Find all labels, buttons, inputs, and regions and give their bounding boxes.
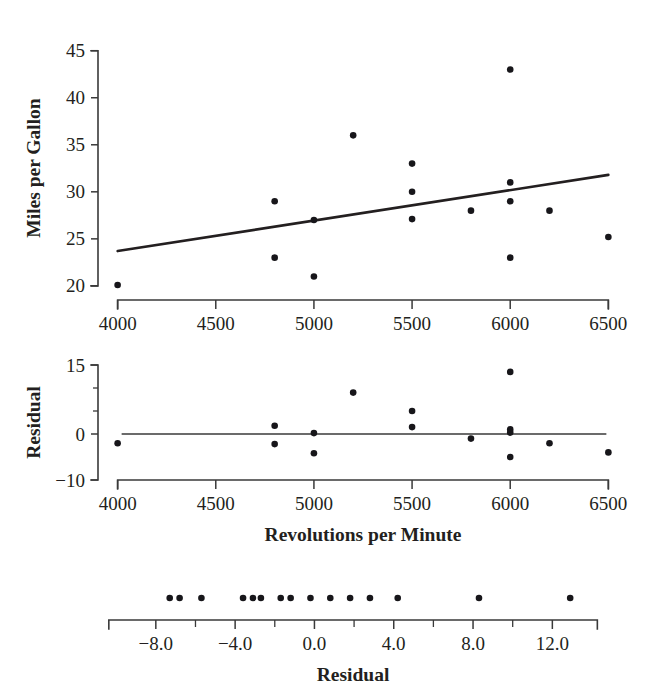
x-tick-label: 4.0	[382, 633, 406, 654]
residual-point	[507, 454, 514, 461]
y-axis-top-spine	[91, 51, 98, 286]
y-tick-label: 15	[66, 355, 85, 376]
dotplot-dot	[277, 595, 284, 602]
regression-line	[118, 175, 609, 251]
x-tick-label: 6000	[491, 313, 529, 334]
x-tick-label: 5500	[393, 313, 431, 334]
x-axis-mid-spine	[118, 480, 609, 489]
scatter-point	[409, 189, 416, 196]
scatter-point	[507, 66, 514, 73]
dotplot-dot	[258, 595, 265, 602]
dotplot-dot	[307, 595, 314, 602]
dotplot-dot	[394, 595, 401, 602]
x-tick-label: 4000	[99, 313, 137, 334]
dotplot-dot	[367, 595, 374, 602]
y-tick-label: 45	[66, 40, 85, 61]
x-tick-label: −4.0	[218, 633, 252, 654]
x-tick-label: 4000	[99, 493, 137, 514]
y-axis-title-top: Miles per Gallon	[23, 98, 44, 238]
x-tick-label: 0.0	[303, 633, 327, 654]
residual-point	[350, 389, 357, 396]
scatter-point	[507, 254, 514, 261]
x-tick-label: 12.0	[536, 633, 569, 654]
residual-point	[546, 440, 553, 447]
scatter-point	[605, 234, 612, 241]
residual-point	[468, 435, 475, 442]
x-tick-label: 4500	[197, 313, 235, 334]
x-axis-bottom-spine	[109, 620, 598, 629]
residual-point	[409, 424, 416, 431]
x-tick-label: 5000	[295, 493, 333, 514]
scatter-point	[350, 132, 357, 139]
x-tick-label: 6500	[589, 313, 627, 334]
dotplot-dot	[347, 595, 354, 602]
residual-point	[311, 430, 318, 437]
residual-point	[507, 369, 514, 376]
scatter-point	[271, 198, 278, 205]
dotplot-dot	[287, 595, 294, 602]
residual-point	[271, 422, 278, 429]
residual-dotplot-panel: −8.0−4.00.04.08.012.0Residual	[0, 572, 658, 692]
dotplot-dot	[250, 595, 257, 602]
residual-point	[605, 449, 612, 456]
y-tick-label: −10	[55, 470, 85, 491]
y-tick-label: 30	[66, 181, 85, 202]
dotplot-dot	[240, 595, 247, 602]
x-tick-label: 8.0	[461, 633, 485, 654]
y-axis-title-mid: Residual	[23, 386, 44, 459]
x-tick-label: 4500	[197, 493, 235, 514]
x-axis-top-spine	[118, 300, 609, 309]
scatter-point	[409, 216, 416, 223]
x-tick-label: 6000	[491, 493, 529, 514]
scatter-point	[311, 217, 318, 224]
scatter-point	[311, 273, 318, 280]
mpg-vs-rpm-scatter-panel: 202530354045400045005000550060006500Mile…	[0, 0, 658, 340]
x-axis-title-bottom: Residual	[317, 664, 390, 685]
x-axis-title-mid: Revolutions per Minute	[265, 524, 462, 545]
residual-point	[271, 441, 278, 448]
dotplot-dot	[198, 595, 205, 602]
statistics-figure: 202530354045400045005000550060006500Mile…	[0, 0, 658, 695]
scatter-point	[546, 207, 553, 214]
y-tick-label: 20	[66, 275, 85, 296]
scatter-point	[507, 198, 514, 205]
y-tick-label: 0	[76, 424, 86, 445]
residual-vs-rpm-panel: −10015400045005000550060006500ResidualRe…	[0, 355, 658, 555]
x-tick-label: −8.0	[139, 633, 173, 654]
dotplot-dot	[176, 595, 183, 602]
residual-point	[311, 450, 318, 457]
scatter-point	[271, 254, 278, 261]
y-tick-label: 25	[66, 228, 85, 249]
residual-point	[507, 429, 514, 436]
scatter-point	[468, 207, 475, 214]
x-tick-label: 5500	[393, 493, 431, 514]
y-tick-label: 35	[66, 134, 85, 155]
scatter-point	[409, 160, 416, 167]
dotplot-dot	[567, 595, 574, 602]
residual-point	[114, 440, 121, 447]
x-tick-label: 6500	[589, 493, 627, 514]
y-axis-mid-spine	[91, 365, 98, 480]
scatter-point	[507, 179, 514, 186]
dotplot-dot	[476, 595, 483, 602]
scatter-point	[114, 282, 121, 289]
x-tick-label: 5000	[295, 313, 333, 334]
residual-point	[409, 408, 416, 415]
dotplot-dot	[166, 595, 173, 602]
y-tick-label: 40	[66, 87, 85, 108]
dotplot-dot	[327, 595, 334, 602]
